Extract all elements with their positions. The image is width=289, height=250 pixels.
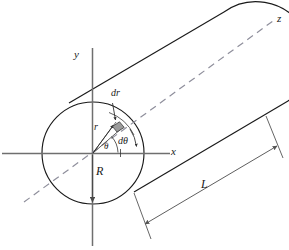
dtheta-label: dθ: [118, 136, 128, 146]
differential-element-group: [93, 103, 137, 157]
cylinder-diagram: y x z R L dr r dθ θ: [0, 0, 289, 250]
diagram-canvas: [0, 0, 289, 250]
dtheta-arc-arrow: [130, 129, 137, 147]
length-dimension: [134, 116, 283, 239]
theta-label: θ: [104, 142, 108, 151]
radius-label: R: [96, 165, 103, 177]
dr-label: dr: [111, 88, 120, 98]
x-axis-label: x: [171, 146, 176, 157]
cylinder-body: [42, 2, 289, 204]
length-extension-near: [134, 193, 151, 239]
dr-leader-arrow: [113, 103, 116, 120]
length-dimension-arrow: [145, 146, 277, 224]
z-axis-label: z: [277, 13, 281, 24]
r-label: r: [94, 122, 98, 132]
length-label: L: [201, 178, 208, 190]
z-axis-line: [24, 21, 273, 202]
cylinder-bottom-edge: [134, 101, 288, 192]
y-axis-label: y: [74, 49, 79, 60]
length-extension-far: [266, 116, 283, 158]
